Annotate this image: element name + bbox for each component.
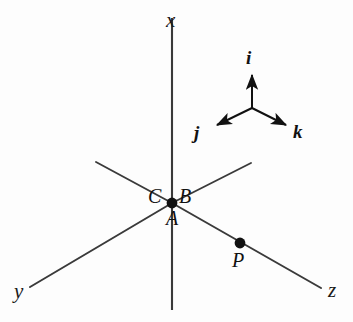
vector-arrow-k	[252, 108, 286, 125]
point-label-c: C	[148, 185, 162, 207]
axis-label-y: y	[12, 279, 24, 303]
guide-segments-group	[96, 162, 251, 203]
axes-group	[30, 18, 321, 310]
axis-line-z	[172, 203, 321, 288]
basis-labels-group: i j k	[191, 47, 303, 143]
point-label-p: P	[231, 249, 244, 271]
axis-label-z: z	[327, 278, 336, 302]
axis-label-x: x	[165, 8, 176, 32]
point-dot-p	[235, 238, 246, 249]
coordinate-axes-diagram: x y z C B A P i j k	[0, 0, 353, 322]
vector-label-i: i	[246, 47, 252, 68]
figure-container: x y z C B A P i j k	[0, 0, 353, 322]
axis-line-y	[30, 203, 172, 287]
axis-labels-group: x y z	[12, 8, 336, 303]
vector-label-j: j	[191, 122, 200, 143]
vector-label-k: k	[293, 121, 303, 142]
point-label-a: A	[164, 207, 179, 229]
basis-triad-group	[217, 75, 286, 125]
point-label-b: B	[179, 185, 191, 207]
vector-arrow-j	[217, 108, 252, 125]
